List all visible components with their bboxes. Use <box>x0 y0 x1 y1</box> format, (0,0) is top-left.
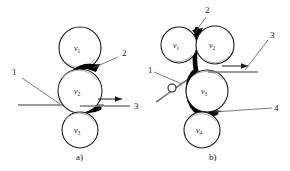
panel-b-guide-roller <box>168 84 176 92</box>
panel-b-caption: b) <box>209 152 217 162</box>
roller-arrangement-figure: v1 v2 v3 1 2 3 a) <box>0 0 290 171</box>
panel-a-callout-2: 2 <box>122 48 127 58</box>
panel-b-callout-3: 3 <box>270 30 275 40</box>
panel-b-leader-4 <box>214 108 272 112</box>
panel-b-callout-2: 2 <box>205 5 210 15</box>
panel-b-leader-3 <box>245 40 268 70</box>
panel-a-leader-1 <box>22 78 60 104</box>
panel-a: v1 v2 v3 1 2 3 a) <box>12 27 139 162</box>
panel-b: v1 v2 v3 v4 1 2 3 4 b) <box>148 5 279 162</box>
panel-a-callout-3: 3 <box>134 101 139 111</box>
panel-b-callout-4: 4 <box>274 103 279 113</box>
panel-b-leader-1 <box>154 72 182 84</box>
panel-b-callout-1: 1 <box>148 65 153 75</box>
panel-a-callout-1: 1 <box>12 67 17 77</box>
panel-a-caption: a) <box>76 152 83 162</box>
panel-a-direction-arrow-head <box>115 96 122 101</box>
